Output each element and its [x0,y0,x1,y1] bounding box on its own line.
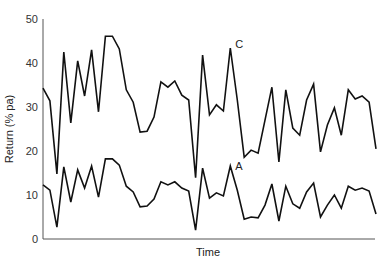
y-tick-label: 40 [26,57,38,69]
series-a-label: A [235,160,243,172]
y-tick-label: 50 [26,13,38,25]
series-c-label: C [235,38,243,50]
y-tick-label: 0 [32,233,38,245]
y-axis-ticks: 01020304050 [26,13,38,245]
line-chart: 01020304050 C A Time Return (% pa) [0,0,388,271]
x-axis-label: Time [196,246,220,258]
y-axis-label: Return (% pa) [3,95,15,163]
y-tick-label: 20 [26,145,38,157]
series-c-line [43,36,376,178]
y-tick-label: 30 [26,101,38,113]
y-tick-label: 10 [26,189,38,201]
series-a-line [43,159,376,230]
